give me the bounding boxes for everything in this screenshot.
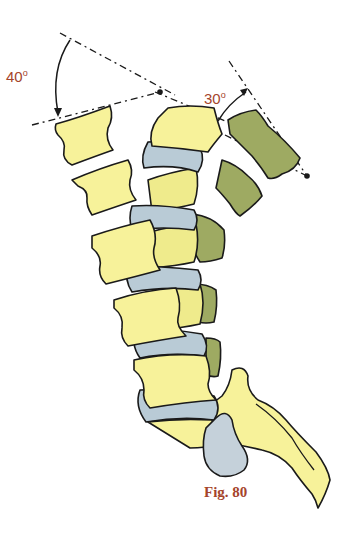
vertebra-main-1 — [151, 106, 222, 152]
figure-caption: Fig. 80 — [204, 484, 247, 501]
vertebra-left-1 — [55, 106, 113, 165]
vertebra-main-back-3 — [150, 224, 198, 268]
spine-diagram — [0, 0, 351, 544]
angle-label-30: 30o — [204, 90, 226, 107]
vertebra-main-3 — [114, 288, 186, 346]
degree-symbol: o — [221, 90, 226, 100]
arrowhead-40-icon — [54, 108, 62, 117]
angle-arc-40 — [56, 40, 70, 113]
vertex-dot-right — [304, 173, 310, 179]
vertebra-left-2 — [72, 160, 136, 215]
reference-line-upper-left — [60, 33, 175, 95]
angle-label-40: 40o — [6, 68, 28, 85]
posterior-element-2 — [216, 160, 262, 216]
angle-value-30: 30 — [204, 90, 221, 107]
degree-symbol: o — [23, 68, 28, 78]
vertebra-main-4 — [134, 355, 216, 408]
angle-value-40: 40 — [6, 68, 23, 85]
